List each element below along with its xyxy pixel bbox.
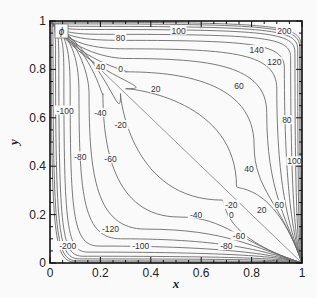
contour-label: 0 — [118, 64, 123, 74]
contour-label: 100 — [287, 156, 301, 166]
y-tick-label: 0.2 — [29, 208, 46, 222]
x-tick-label: 0.8 — [243, 266, 260, 280]
phi-label: ϕ — [59, 26, 65, 37]
contour-label: -80 — [74, 152, 87, 162]
contour-label: -20 — [114, 120, 127, 130]
contour-label: -60 — [104, 154, 117, 164]
contour-chart: 0020-2020-2040-4040-4060-6060-6080-8080-… — [0, 0, 317, 298]
contour-label: 40 — [96, 62, 106, 72]
contour-label: 60 — [234, 81, 244, 91]
x-tick-label: 0.6 — [193, 266, 210, 280]
y-tick-label: 1 — [39, 14, 46, 28]
contour-label: 200 — [277, 26, 291, 36]
contour-label: 20 — [257, 205, 267, 215]
contour-lines — [50, 21, 302, 263]
x-tick-label: 0 — [47, 266, 54, 280]
contour-label: 80 — [116, 33, 126, 43]
y-tick-label: 0.4 — [29, 159, 46, 173]
contour-label: -80 — [220, 241, 233, 251]
contour-label: -120 — [102, 224, 119, 234]
contour-line — [50, 21, 302, 263]
contour-label: 120 — [267, 57, 281, 67]
contour-label: 0 — [229, 210, 234, 220]
contour-label: -40 — [190, 210, 203, 220]
contour-label: 60 — [275, 200, 285, 210]
x-tick-label: 0.2 — [92, 266, 109, 280]
y-tick-label: 0.8 — [29, 62, 46, 76]
contour-label: -20 — [225, 200, 238, 210]
contour-label: 40 — [244, 164, 254, 174]
y-tick-label: 0 — [39, 256, 46, 270]
variable-legend: ϕ — [55, 24, 68, 38]
x-tick-label: 1 — [299, 266, 306, 280]
contour-label: 140 — [250, 45, 264, 55]
y-tick-labels: 00.20.40.60.81 — [29, 14, 46, 270]
contour-label: -60 — [233, 231, 246, 241]
y-tick-label: 0.6 — [29, 111, 46, 125]
contour-label: 80 — [282, 115, 292, 125]
contour-label: 100 — [171, 26, 185, 36]
y-axis-title: y — [6, 139, 21, 147]
contour-label: -100 — [132, 241, 149, 251]
contour-label: 20 — [151, 84, 161, 94]
contour-label: -200 — [59, 241, 76, 251]
contour-label: -40 — [94, 108, 107, 118]
contour-label: -100 — [57, 106, 74, 116]
x-tick-label: 0.4 — [142, 266, 159, 280]
x-axis-title: x — [172, 276, 180, 291]
